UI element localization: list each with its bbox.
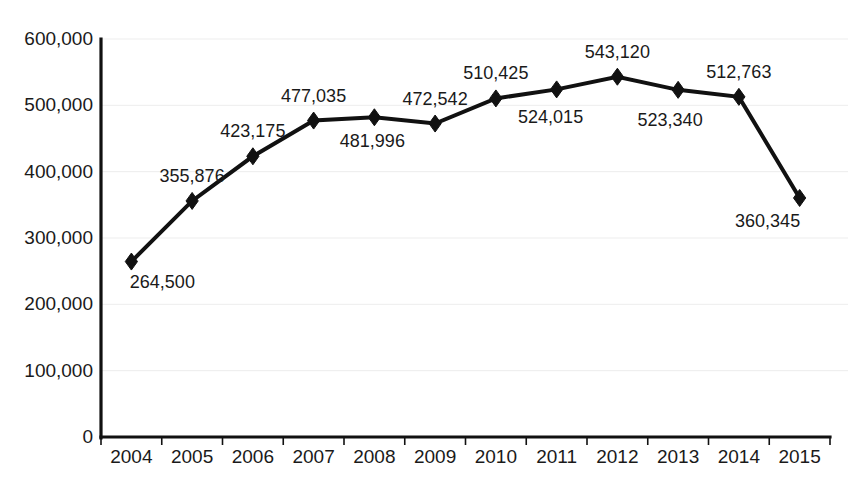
y-axis-tick-label: 600,000 [24, 28, 93, 49]
y-axis-tick-label: 500,000 [24, 94, 93, 115]
x-axis-tick-label: 2005 [171, 446, 213, 467]
data-point-label: 481,996 [340, 131, 405, 151]
data-point-marker [490, 90, 502, 107]
gridlines [101, 39, 848, 371]
y-axis-tick-labels: 0100,000200,000300,000400,000500,000600,… [24, 28, 93, 447]
x-axis-tick-label: 2014 [718, 446, 761, 467]
y-axis-tick-label: 100,000 [24, 360, 93, 381]
data-point-marker [368, 109, 380, 126]
y-axis-tick-label: 0 [82, 426, 93, 447]
x-axis-tick-label: 2010 [475, 446, 517, 467]
y-axis-tick-label: 400,000 [24, 161, 93, 182]
data-point-marker [429, 115, 441, 132]
data-point-label: 512,763 [706, 62, 771, 82]
data-point-label: 523,340 [638, 110, 703, 130]
data-point-marker [672, 81, 684, 98]
data-point-label: 510,425 [463, 63, 528, 83]
x-axis-tick-label: 2012 [596, 446, 638, 467]
x-axis-tick-label: 2006 [232, 446, 274, 467]
data-point-marker [611, 68, 623, 85]
data-point-label: 472,542 [403, 89, 468, 109]
data-point-label: 543,120 [585, 42, 650, 62]
data-point-marker [247, 148, 259, 165]
x-axis-tick-label: 2008 [353, 446, 395, 467]
data-point-label: 264,500 [130, 272, 195, 292]
data-point-marker [551, 81, 563, 98]
chart-canvas: 0100,000200,000300,000400,000500,000600,… [0, 0, 861, 500]
data-point-label: 360,345 [735, 211, 800, 231]
data-point-label: 423,175 [220, 121, 285, 141]
x-axis-tick-label: 2004 [110, 446, 153, 467]
line-chart: 0100,000200,000300,000400,000500,000600,… [0, 0, 861, 500]
x-axis-tick-label: 2007 [292, 446, 334, 467]
series-point-labels: 264,500355,876423,175477,035481,996472,5… [130, 42, 800, 292]
data-point-label: 355,876 [160, 166, 225, 186]
data-point-marker [308, 112, 320, 129]
x-axis-tick-label: 2009 [414, 446, 456, 467]
y-axis-tick-label: 300,000 [24, 227, 93, 248]
y-axis-tick-label: 200,000 [24, 293, 93, 314]
x-axis-tick-label: 2015 [778, 446, 820, 467]
x-axis-tick-labels: 2004200520062007200820092010201120122013… [110, 446, 821, 467]
data-point-label: 524,015 [518, 107, 583, 127]
data-point-label: 477,035 [281, 86, 346, 106]
x-axis-tick-label: 2013 [657, 446, 699, 467]
x-axis-tick-label: 2011 [536, 446, 577, 467]
